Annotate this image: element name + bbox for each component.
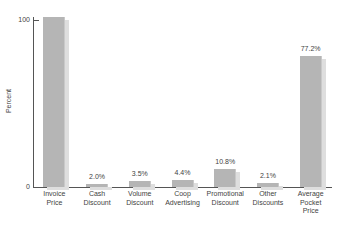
category-label: VolumeDiscount [118,190,161,207]
bar[interactable] [129,181,151,187]
bar-group: 3.5% [129,17,151,187]
category-label-line: Price [33,199,76,208]
y-axis-title: Percent [5,75,13,127]
bar-value-label: 77.2% [301,45,321,53]
bar-group [43,17,65,187]
bar[interactable] [257,183,279,187]
bar-group: 2.0% [86,17,108,187]
bar[interactable] [300,56,322,187]
bar[interactable] [43,17,65,187]
bar-group: 4.4% [172,17,194,187]
category-label-line: Average [289,190,332,199]
category-label: PromotionalDiscount [204,190,247,207]
bar-value-label: 2.0% [89,173,105,181]
bar[interactable] [172,180,194,187]
bar-value-label: 4.4% [175,169,191,177]
bar-value-label: 10.8% [215,158,235,166]
bar-group: 2.1% [257,17,279,187]
category-label-line: Volume [118,190,161,199]
category-label-line: Pocket [289,199,332,208]
bar-value-label: 2.1% [260,172,276,180]
plot-area: 2.0%3.5%4.4%10.8%2.1%77.2% [33,17,332,187]
category-label-line: Discount [76,199,119,208]
y-axis-tick-label-top: 100 [8,16,30,24]
category-label-line: Coop [161,190,204,199]
bar-group: 77.2% [300,17,322,187]
category-label: CoopAdvertising [161,190,204,207]
bar-group: 10.8% [214,17,236,187]
category-label: InvoicePrice [33,190,76,207]
category-label-line: Discount [118,199,161,208]
bar[interactable] [86,184,108,187]
category-label: CashDiscount [76,190,119,207]
y-axis-tick-label-bottom: 0 [8,183,30,191]
category-label-line: Promotional [204,190,247,199]
category-label-line: Invoice [33,190,76,199]
category-label-line: Cash [76,190,119,199]
category-label-line: Other [247,190,290,199]
bar[interactable] [214,169,236,187]
bar-value-label: 3.5% [132,170,148,178]
category-label: OtherDiscounts [247,190,290,207]
bar-chart: 100 0 Percent 2.0%3.5%4.4%10.8%2.1%77.2%… [0,0,341,231]
category-label-line: Advertising [161,199,204,208]
category-label-line: Discount [204,199,247,208]
category-label-row: InvoicePriceCashDiscountVolumeDiscountCo… [33,190,332,231]
category-label-line: Discounts [247,199,290,208]
category-label-line: Price [289,207,332,216]
category-label: AveragePocketPrice [289,190,332,216]
